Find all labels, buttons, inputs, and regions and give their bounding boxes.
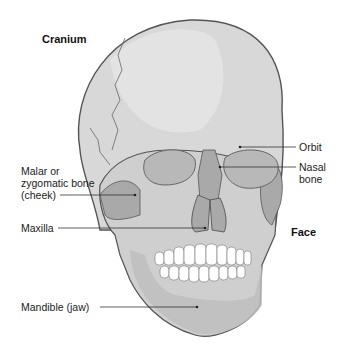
region-label-cranium: Cranium (42, 33, 87, 45)
region-label-face: Face (291, 226, 316, 238)
orbit-right (224, 150, 278, 188)
skull-diagram: Cranium Face Orbit Nasal bone Malar or z… (0, 0, 348, 345)
label-maxilla: Maxilla (21, 222, 54, 234)
label-malar-zygomatic-bone: Malar or zygomatic bone (cheek) (21, 165, 95, 201)
label-nasal-bone: Nasal bone (299, 161, 326, 185)
label-orbit: Orbit (299, 141, 322, 153)
label-mandible: Mandible (jaw) (21, 301, 89, 313)
